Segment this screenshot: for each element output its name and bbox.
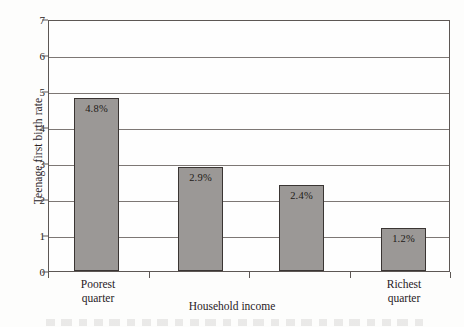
chart-figure: Teenage first birth rate 0 1 2 3 4 5 6 7… <box>0 0 464 327</box>
bar-richest-quarter[interactable]: 1.2% <box>381 228 426 271</box>
bar-value-label-1: 2.9% <box>179 172 222 183</box>
gridline-6 <box>49 57 449 58</box>
bar-poorest-quarter[interactable]: 4.8% <box>74 98 119 271</box>
x-tick-mark-1 <box>149 272 150 278</box>
x-axis-title: Household income <box>0 300 464 312</box>
x-tick-mark-4 <box>450 272 451 278</box>
x-category-line-1: Poorest <box>58 277 138 291</box>
gridline-5 <box>49 93 449 94</box>
y-axis-title: Teenage first birth rate <box>32 51 44 251</box>
bar-value-label-3: 1.2% <box>382 233 425 244</box>
x-tick-mark-3 <box>350 272 351 278</box>
x-tick-mark-2 <box>249 272 250 278</box>
x-category-line-1: Richest <box>364 277 444 291</box>
bar-value-label-2: 2.4% <box>280 190 323 201</box>
plot-area: 4.8% 2.9% 2.4% 1.2% <box>48 20 450 272</box>
x-tick-mark-0 <box>48 272 49 278</box>
bar-second-quarter[interactable]: 2.9% <box>178 167 223 271</box>
scan-bleed-artifact <box>46 319 426 326</box>
bar-value-label-0: 4.8% <box>75 103 118 114</box>
bar-third-quarter[interactable]: 2.4% <box>279 185 324 271</box>
